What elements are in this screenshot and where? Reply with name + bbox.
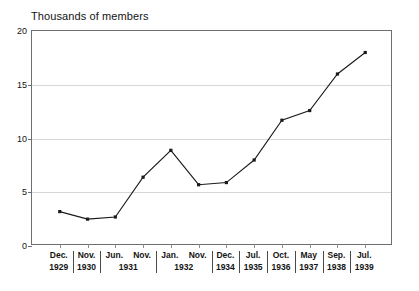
data-point bbox=[280, 119, 283, 122]
data-point bbox=[336, 72, 339, 75]
y-tick-mark-0 bbox=[28, 246, 32, 247]
x-tick-label: Oct. bbox=[273, 250, 290, 262]
x-label-month: Jul. bbox=[246, 250, 261, 262]
y-tick-label-10: 10 bbox=[17, 134, 27, 143]
data-point bbox=[58, 210, 61, 213]
x-tick-label: May bbox=[300, 250, 317, 262]
data-series bbox=[32, 31, 393, 246]
chart-title: Thousands of members bbox=[31, 10, 149, 22]
x-tick-label: Nov. bbox=[78, 250, 96, 262]
x-label-year: 1929 bbox=[49, 262, 68, 274]
x-label-group-separator bbox=[350, 251, 351, 273]
x-label-month: Nov. bbox=[133, 250, 151, 262]
x-label-group-separator bbox=[267, 251, 268, 273]
x-tick-label: Nov. bbox=[189, 250, 207, 262]
x-tick-label: Jul. bbox=[246, 250, 261, 262]
x-label-year: 1938 bbox=[327, 262, 346, 274]
x-label-year: 1934 bbox=[216, 262, 235, 274]
x-label-month: Dec. bbox=[50, 250, 68, 262]
data-point bbox=[114, 215, 117, 218]
data-point bbox=[253, 158, 256, 161]
x-label-month: May bbox=[300, 250, 317, 262]
x-label-group-separator bbox=[239, 251, 240, 273]
line-chart: Thousands of members 05101520 Dec.1929No… bbox=[0, 0, 419, 291]
data-point bbox=[141, 176, 144, 179]
data-point bbox=[308, 109, 311, 112]
x-label-month: Sep. bbox=[327, 250, 345, 262]
x-label-year: 1937 bbox=[299, 262, 318, 274]
x-label-group-separator bbox=[212, 251, 213, 273]
series-markers bbox=[58, 51, 367, 221]
data-point bbox=[364, 51, 367, 54]
data-point bbox=[86, 218, 89, 221]
x-tick-label: Jan. bbox=[161, 250, 178, 262]
x-label-group-separator bbox=[295, 251, 296, 273]
x-label-month: Nov. bbox=[189, 250, 207, 262]
x-label-year: 1931 bbox=[119, 262, 138, 274]
x-label-month: Dec. bbox=[216, 250, 234, 262]
x-axis-labels: Dec.1929Nov.1930Jun.Nov.1931Jan.Nov.1932… bbox=[31, 250, 392, 284]
data-point bbox=[225, 181, 228, 184]
y-tick-label-0: 0 bbox=[22, 242, 27, 251]
x-label-month: Oct. bbox=[273, 250, 290, 262]
x-tick-label: Jun. bbox=[106, 250, 123, 262]
plot-area: 05101520 bbox=[31, 30, 392, 245]
x-label-group-separator bbox=[156, 251, 157, 273]
x-tick-label: Sep. bbox=[327, 250, 345, 262]
x-tick-label: Nov. bbox=[133, 250, 151, 262]
x-label-month: Nov. bbox=[78, 250, 96, 262]
x-label-year: 1930 bbox=[77, 262, 96, 274]
y-tick-label-15: 15 bbox=[17, 80, 27, 89]
y-tick-label-20: 20 bbox=[17, 27, 27, 36]
x-label-group-separator bbox=[73, 251, 74, 273]
x-label-year: 1932 bbox=[174, 262, 193, 274]
x-label-group-separator bbox=[100, 251, 101, 273]
x-label-year: 1939 bbox=[355, 262, 374, 274]
x-label-group-separator bbox=[323, 251, 324, 273]
x-tick-label: Dec. bbox=[50, 250, 68, 262]
data-point bbox=[197, 183, 200, 186]
y-tick-label-5: 5 bbox=[22, 188, 27, 197]
x-tick-label: Dec. bbox=[216, 250, 234, 262]
series-line bbox=[60, 53, 365, 220]
x-label-month: Jan. bbox=[161, 250, 178, 262]
x-label-year: 1935 bbox=[244, 262, 263, 274]
x-label-year: 1936 bbox=[271, 262, 290, 274]
x-label-month: Jul. bbox=[357, 250, 372, 262]
x-tick-label: Jul. bbox=[357, 250, 372, 262]
x-label-month: Jun. bbox=[106, 250, 123, 262]
data-point bbox=[169, 149, 172, 152]
